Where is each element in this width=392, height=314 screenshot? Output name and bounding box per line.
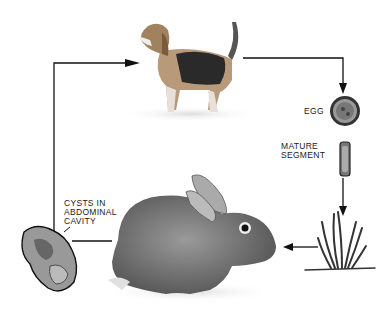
grass-illustration bbox=[305, 212, 375, 270]
mature-segment-label-line2: SEGMENT bbox=[281, 151, 325, 160]
mature-segment-illustration bbox=[340, 142, 350, 176]
egg-illustration bbox=[330, 96, 360, 126]
cysts-illustration bbox=[22, 226, 77, 290]
dog-illustration bbox=[120, 22, 260, 122]
diagram-graphics bbox=[0, 0, 392, 314]
rabbit-illustration bbox=[100, 175, 280, 302]
cysts-label-line3: CAVITY bbox=[64, 217, 96, 226]
life-cycle-diagram: EGG MATURE SEGMENT CYSTS IN ABDOMINAL CA… bbox=[0, 0, 392, 314]
egg-label: EGG bbox=[304, 107, 324, 116]
